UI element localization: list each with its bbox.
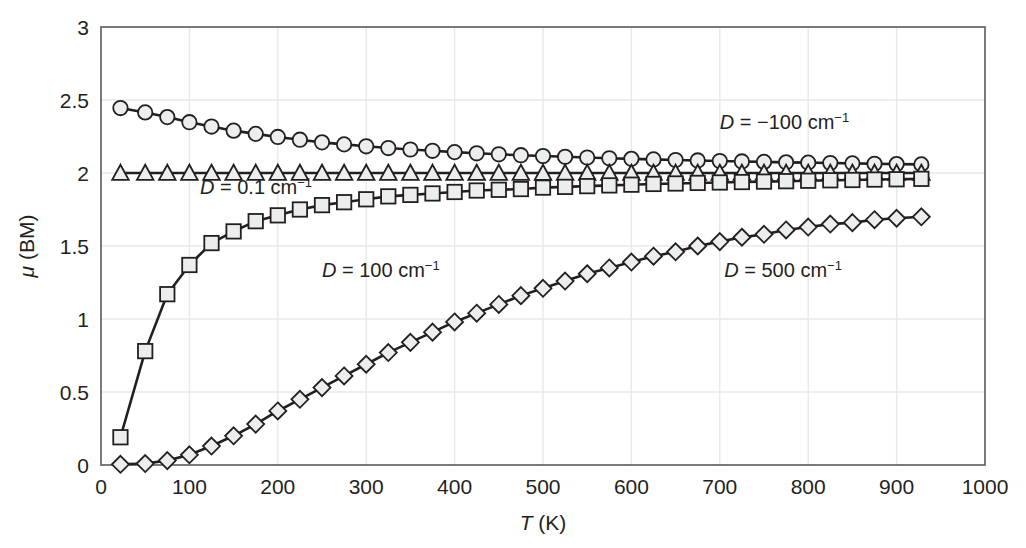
- data-point-circle: [271, 130, 285, 144]
- y-tick-label: 3: [77, 16, 89, 39]
- data-point-diamond: [137, 455, 154, 472]
- x-tick-label: 200: [260, 475, 295, 498]
- data-point-circle: [470, 146, 484, 160]
- data-point-circle: [425, 144, 439, 158]
- data-point-circle: [204, 119, 218, 133]
- data-point-square: [138, 344, 152, 358]
- data-point-square: [447, 185, 461, 199]
- data-point-circle: [403, 142, 417, 156]
- data-point-circle: [182, 115, 196, 129]
- data-point-square: [823, 173, 837, 187]
- y-tick-label: 0: [77, 454, 89, 477]
- data-point-square: [315, 198, 329, 212]
- data-point-diamond: [203, 438, 220, 455]
- data-point-square: [492, 183, 506, 197]
- data-point-circle: [492, 147, 506, 161]
- data-point-square: [713, 175, 727, 189]
- series-line: [120, 217, 921, 464]
- data-point-diamond: [380, 344, 397, 361]
- data-point-circle: [558, 150, 572, 164]
- data-point-circle: [315, 135, 329, 149]
- data-point-square: [249, 214, 263, 228]
- series-diamond: [112, 208, 930, 472]
- data-point-diamond: [623, 254, 640, 271]
- data-point-square: [867, 172, 881, 186]
- data-point-square: [271, 208, 285, 222]
- data-point-diamond: [336, 367, 353, 384]
- data-point-square: [845, 173, 859, 187]
- data-point-square: [425, 186, 439, 200]
- data-point-circle: [447, 145, 461, 159]
- data-point-square: [293, 202, 307, 216]
- data-point-circle: [160, 110, 174, 124]
- data-point-circle: [138, 105, 152, 119]
- ann-d500: D = 500 cm−1: [724, 258, 842, 281]
- data-point-circle: [514, 148, 528, 162]
- data-point-circle: [226, 123, 240, 137]
- series-line: [120, 179, 921, 437]
- data-point-diamond: [689, 238, 706, 255]
- figure-container: 01002003004005006007008009001000 00.511.…: [0, 0, 1026, 548]
- data-point-diamond: [888, 210, 905, 227]
- data-point-diamond: [402, 334, 419, 351]
- data-point-circle: [536, 149, 550, 163]
- data-point-diamond: [512, 287, 529, 304]
- data-point-diamond: [733, 229, 750, 246]
- data-point-circle: [293, 133, 307, 147]
- data-point-square: [624, 177, 638, 191]
- data-point-diamond: [358, 356, 375, 373]
- data-point-square: [160, 287, 174, 301]
- series-layer: [112, 101, 930, 473]
- grid-layer: [101, 27, 985, 465]
- data-point-square: [914, 172, 928, 186]
- data-point-diamond: [535, 280, 552, 297]
- x-axis-ticklabels: 01002003004005006007008009001000: [95, 475, 1008, 498]
- data-point-square: [668, 176, 682, 190]
- y-axis-title: μ (BM): [15, 215, 38, 279]
- data-point-square: [602, 178, 616, 192]
- data-point-diamond: [756, 226, 773, 243]
- data-point-square: [182, 258, 196, 272]
- data-point-diamond: [601, 259, 618, 276]
- data-point-diamond: [159, 452, 176, 469]
- data-point-diamond: [424, 324, 441, 341]
- data-point-diamond: [314, 379, 331, 396]
- x-tick-label: 800: [791, 475, 826, 498]
- data-point-diamond: [181, 446, 198, 463]
- data-point-circle: [381, 141, 395, 155]
- data-point-square: [801, 174, 815, 188]
- data-point-square: [646, 177, 660, 191]
- data-point-diamond: [645, 248, 662, 265]
- data-point-diamond: [247, 416, 264, 433]
- x-tick-label: 1000: [962, 475, 1009, 498]
- y-axis-ticklabels: 00.511.522.53: [60, 16, 89, 477]
- ann-dneg100: D = −100 cm−1: [720, 110, 849, 133]
- x-tick-label: 300: [349, 475, 384, 498]
- data-point-square: [757, 174, 771, 188]
- data-point-square: [381, 189, 395, 203]
- x-tick-label: 500: [525, 475, 560, 498]
- data-point-diamond: [844, 214, 861, 231]
- data-point-square: [691, 176, 705, 190]
- series-square: [113, 172, 928, 445]
- data-point-diamond: [822, 216, 839, 233]
- ann-d100: D = 100 cm−1: [322, 258, 440, 281]
- data-point-circle: [359, 139, 373, 153]
- ann-d01: D = 0.1 cm−1: [200, 175, 312, 198]
- data-point-square: [514, 182, 528, 196]
- data-point-diamond: [866, 211, 883, 228]
- chart-canvas: 01002003004005006007008009001000 00.511.…: [0, 0, 1026, 548]
- data-point-square: [779, 174, 793, 188]
- data-point-circle: [113, 101, 127, 115]
- y-tick-label: 2: [77, 162, 89, 185]
- data-point-square: [580, 179, 594, 193]
- data-point-diamond: [557, 273, 574, 290]
- data-point-diamond: [490, 296, 507, 313]
- data-point-square: [226, 224, 240, 238]
- data-point-diamond: [778, 221, 795, 238]
- x-tick-label: 900: [879, 475, 914, 498]
- data-point-square: [359, 192, 373, 206]
- x-tick-label: 600: [614, 475, 649, 498]
- data-point-diamond: [446, 313, 463, 330]
- data-point-diamond: [112, 456, 129, 473]
